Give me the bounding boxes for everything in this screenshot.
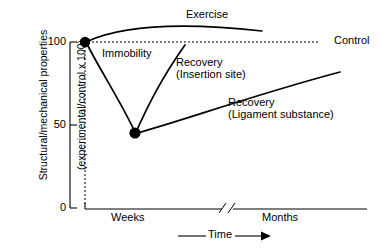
x-tick-label-weeks: Weeks <box>111 212 144 224</box>
annotation-recovery-insertion-line1: Recovery <box>176 57 246 69</box>
annotation-recovery-insertion-line2: (Insertion site) <box>176 69 246 81</box>
x-axis-title: Time <box>208 229 232 241</box>
annotation-immobility: Immobility <box>102 48 152 60</box>
annotation-recovery-ligament-substance: Recovery (Ligament substance) <box>228 97 334 120</box>
y-tick-label-100: 100 <box>28 35 66 47</box>
y-tick-label-50: 50 <box>28 118 66 130</box>
chart-figure: Structural/mechanical properties (experi… <box>0 0 389 250</box>
annotation-control: Control <box>334 35 369 47</box>
exercise-curve <box>86 26 262 42</box>
y-axis-title-line2: (experimental/control x 100) <box>75 10 88 200</box>
annotation-recovery-ligament-line2: (Ligament substance) <box>228 109 334 121</box>
annotation-recovery-insertion-site: Recovery (Insertion site) <box>176 57 246 80</box>
x-axis-break-slash-2 <box>228 203 235 213</box>
x-tick-label-months: Months <box>262 212 298 224</box>
annotation-recovery-ligament-line1: Recovery <box>228 97 334 109</box>
immobility-nadir-point-marker <box>129 127 140 138</box>
y-tick-label-0: 0 <box>28 201 66 213</box>
annotation-exercise: Exercise <box>186 9 228 21</box>
time-arrow-head <box>261 232 271 241</box>
x-axis-break-slash-1 <box>219 203 226 213</box>
